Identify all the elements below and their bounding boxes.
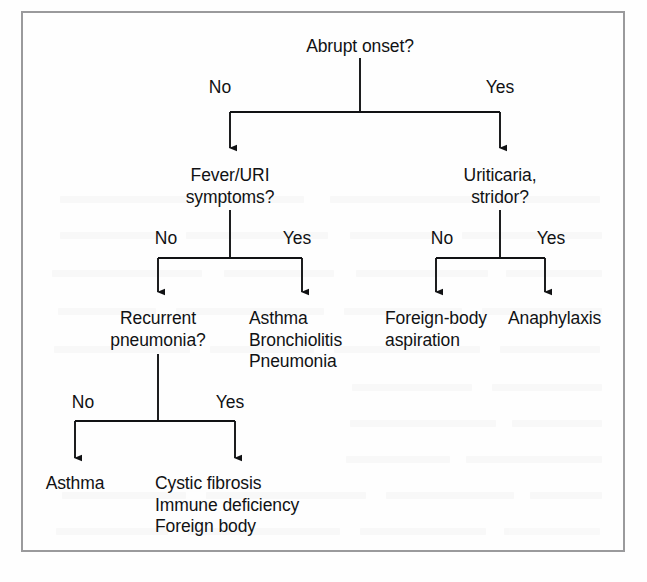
edge-label-root-no: No bbox=[209, 77, 231, 97]
node-cystic-fibrosis-group: Cystic fibrosis Immune deficiency Foreig… bbox=[155, 473, 299, 538]
edge-label-pneumonia-no: No bbox=[72, 392, 94, 412]
node-asthma: Asthma bbox=[46, 473, 105, 495]
node-anaphylaxis: Anaphylaxis bbox=[508, 308, 601, 330]
edge-label-pneumonia-yes: Yes bbox=[216, 392, 245, 412]
edge-label-fever-no: No bbox=[155, 228, 177, 248]
node-root: Abrupt onset? bbox=[306, 36, 414, 58]
node-asthma-bronchiolitis-pneumonia: Asthma Bronchiolitis Pneumonia bbox=[249, 308, 342, 373]
edge-label-urticaria-no: No bbox=[431, 228, 453, 248]
node-foreign-body-aspiration: Foreign-body aspiration bbox=[385, 308, 487, 351]
figure-page: Abrupt onset? Fever/URI symptoms? Uritic… bbox=[0, 0, 647, 582]
edge-label-fever-yes: Yes bbox=[283, 228, 312, 248]
node-recurrent-pneumonia: Recurrent pneumonia? bbox=[110, 308, 205, 351]
edge-label-urticaria-yes: Yes bbox=[537, 228, 566, 248]
edge-label-root-yes: Yes bbox=[486, 77, 515, 97]
node-fever-uri: Fever/URI symptoms? bbox=[186, 165, 275, 208]
flowchart-connectors bbox=[0, 0, 647, 582]
node-uriticaria-stridor: Uriticaria, stridor? bbox=[464, 165, 537, 208]
